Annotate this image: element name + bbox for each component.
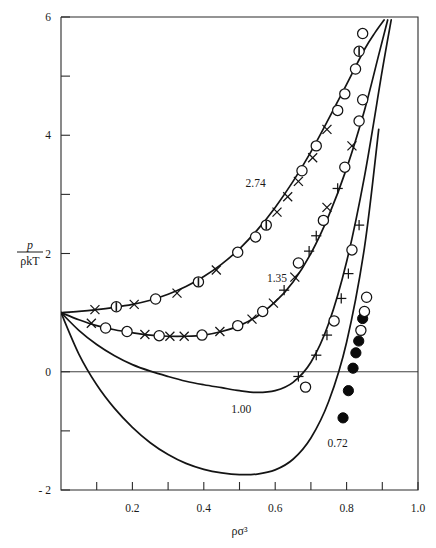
data-point-open-circle	[233, 247, 243, 257]
data-point-half-circle	[354, 46, 364, 56]
data-point-open-circle	[318, 215, 328, 225]
data-point-open-circle	[151, 294, 161, 304]
isotherm-label-1.35: 1.35	[267, 272, 287, 284]
data-point-open-circle	[311, 141, 321, 151]
y-axis-tick-labels: 6420- 2	[39, 11, 52, 496]
x-axis-title: ρσ³	[231, 524, 247, 538]
y-axis-title-denominator: ρkT	[20, 254, 40, 268]
data-point-open-circle	[154, 331, 164, 341]
data-point-half-circle	[261, 220, 271, 230]
data-point-open-circle	[233, 321, 243, 331]
data-point-open-circle	[358, 95, 368, 105]
isotherm-curves	[61, 20, 391, 475]
isotherm-curve-1.00	[61, 20, 391, 392]
data-point-open-circle	[258, 306, 268, 316]
data-point-open-circle	[358, 28, 368, 38]
data-point-open-circle	[354, 116, 364, 126]
data-point-open-circle	[333, 105, 343, 115]
data-point-open-circle	[350, 64, 360, 74]
isotherm-label-0.72: 0.72	[328, 437, 348, 449]
x-tick-label: 0.4	[197, 502, 212, 514]
x-tick-label: 0.6	[268, 502, 283, 514]
data-point-open-circle	[340, 89, 350, 99]
data-point-cross	[247, 315, 256, 324]
data-point-plus	[311, 231, 321, 241]
data-point-cross	[322, 203, 331, 212]
x-tick-label: 0.8	[339, 502, 354, 514]
figure-container: 0.20.40.60.81.0 6420- 2 2.741.351.000.72…	[0, 0, 436, 548]
data-point-open-circle	[361, 292, 371, 302]
isotherm-curve-0.72	[61, 129, 379, 474]
data-point-open-circle	[101, 323, 111, 333]
equation-of-state-chart: 0.20.40.60.81.0 6420- 2 2.741.351.000.72…	[0, 0, 436, 548]
data-point-filled-circle	[338, 413, 348, 423]
isotherm-curve-2.74	[61, 20, 384, 313]
data-point-cross	[347, 141, 356, 150]
data-point-open-circle	[356, 325, 366, 335]
data-point-cross	[308, 153, 317, 162]
data-point-cross	[283, 192, 292, 201]
data-point-open-circle	[359, 306, 369, 316]
isotherm-label-2.74: 2.74	[246, 177, 266, 189]
x-tick-label: 0.2	[125, 502, 140, 514]
data-point-open-circle	[293, 258, 303, 268]
data-point-open-circle	[197, 330, 207, 340]
data-point-open-circle	[297, 166, 307, 176]
data-point-half-circle	[111, 302, 121, 312]
data-point-filled-circle	[348, 363, 358, 373]
markers-1.35	[87, 95, 368, 341]
data-point-filled-circle	[343, 386, 353, 396]
data-point-open-circle	[122, 326, 132, 336]
x-axis-ticks	[97, 482, 418, 490]
data-point-plus	[279, 285, 289, 295]
y-tick-label: 6	[45, 11, 51, 23]
data-point-cross	[272, 208, 281, 217]
data-point-open-circle	[300, 382, 310, 392]
y-tick-label: 2	[45, 248, 51, 260]
y-axis-title-numerator: p	[26, 238, 33, 252]
data-point-cross	[294, 177, 303, 186]
y-tick-label: 4	[45, 129, 51, 141]
data-point-cross	[269, 299, 278, 308]
x-axis-title-text: ρσ³	[231, 524, 247, 538]
x-axis-tick-labels: 0.20.40.60.81.0	[125, 502, 425, 514]
isotherm-labels: 2.741.351.000.72	[231, 177, 348, 449]
data-point-open-circle	[329, 316, 339, 326]
data-point-plus	[304, 246, 314, 256]
x-tick-label: 1.0	[411, 502, 426, 514]
data-point-open-circle	[340, 162, 350, 172]
y-tick-label: - 2	[39, 484, 52, 496]
isotherm-label-1.00: 1.00	[231, 403, 251, 415]
markers-2.74	[90, 28, 367, 314]
data-point-filled-circle	[351, 348, 361, 358]
data-point-open-circle	[347, 245, 357, 255]
y-axis-ticks	[61, 17, 70, 490]
data-point-open-circle	[250, 232, 260, 242]
data-point-filled-circle	[354, 336, 364, 346]
y-tick-label: 0	[45, 366, 51, 378]
data-point-half-circle	[193, 277, 203, 287]
y-axis-title: pρkT	[17, 238, 43, 268]
